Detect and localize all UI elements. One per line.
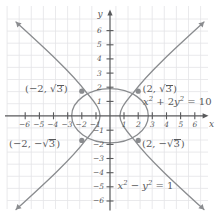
point-pos2-sqrt3: [136, 89, 141, 94]
x-axis-arrow: [203, 113, 209, 118]
axes: [5, 13, 206, 211]
y-tick-label-6: 6: [97, 27, 102, 35]
conic-sections-graph: −6 −5 −4 −3 −2 −1 1 2 3 4 5 6 6 5 4 3 2 …: [0, 0, 221, 215]
hyperbola-equation-label: x2 − y2 = 1: [118, 181, 174, 191]
x-tick-label--2: −2: [76, 121, 87, 129]
x-tick-label-5: 5: [178, 121, 183, 129]
y-tick-label--2: −2: [93, 141, 104, 149]
ellipse-equation-label: x2 + 2y2 = 10: [143, 97, 212, 107]
point-label-bottom-left: (−2, −√3): [9, 139, 60, 149]
graph-canvas: [0, 0, 221, 215]
point-pos2-neg-sqrt3: [136, 138, 141, 143]
point-label-top-right: (2, √3): [143, 84, 177, 94]
x-axis-label: x: [209, 120, 214, 129]
grid-lines: [7, 6, 208, 209]
y-tick-label-2: 2: [97, 84, 102, 92]
x-tick-label-3: 3: [150, 121, 155, 129]
point-neg2-sqrt3: [79, 89, 84, 94]
point-neg2-neg-sqrt3: [79, 138, 84, 143]
y-tick-label--4: −4: [93, 169, 104, 177]
x-tick-label--5: −5: [33, 121, 44, 129]
x-tick-label-6: 6: [193, 121, 198, 129]
x-tick-label--3: −3: [62, 121, 73, 129]
x-tick-label-4: 4: [164, 121, 169, 129]
y-tick-label-4: 4: [97, 55, 102, 63]
y-tick-label-3: 3: [97, 70, 102, 78]
y-tick-label--3: −3: [93, 155, 104, 163]
y-tick-label--6: −6: [93, 197, 104, 205]
x-tick-label--6: −6: [19, 121, 30, 129]
point-label-top-left: (−2, √3): [25, 84, 68, 94]
y-axis-arrow: [107, 10, 112, 16]
x-tick-label-2: 2: [136, 121, 141, 129]
y-tick-label--1: −1: [93, 127, 104, 135]
x-tick-label--4: −4: [47, 121, 58, 129]
x-tick-label-1: 1: [122, 121, 127, 129]
y-tick-label--5: −5: [93, 183, 104, 191]
y-axis-label: y: [98, 10, 103, 19]
y-tick-label-1: 1: [97, 98, 102, 106]
point-label-bottom-right: (2, −√3): [142, 139, 185, 149]
y-tick-label-5: 5: [97, 41, 102, 49]
